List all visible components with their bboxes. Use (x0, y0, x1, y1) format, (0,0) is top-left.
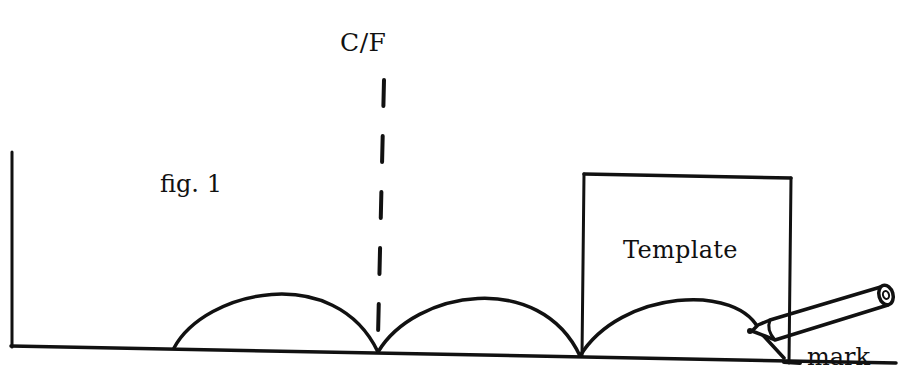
template-left-edge (582, 174, 584, 356)
diagram-drawing (0, 0, 903, 374)
arc-1 (174, 294, 378, 352)
arc-2 (378, 298, 580, 356)
template-label: Template (623, 238, 738, 262)
baseline (11, 346, 896, 363)
mark-point (784, 362, 800, 363)
pencil-icon (747, 283, 895, 340)
mark-label: mark (807, 345, 870, 369)
centre-line-dashed (378, 80, 384, 336)
arc-3 (580, 300, 760, 356)
template-top-edge (584, 174, 791, 178)
fig-1-diagram: C/F fig. 1 Template mark (0, 0, 903, 374)
centre-line-label: C/F (340, 30, 386, 55)
figure-caption: fig. 1 (160, 172, 222, 196)
